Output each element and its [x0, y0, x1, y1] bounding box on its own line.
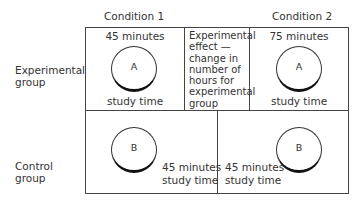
grid-line [85, 27, 86, 194]
row-label-line: Experimental [15, 64, 85, 76]
study-duration: 45 minutes [225, 161, 284, 173]
note-line: experimental [189, 86, 256, 97]
note-line: effect — [189, 41, 256, 52]
column-header-condition-1: Condition 1 [104, 10, 164, 22]
note-line: hours for [189, 75, 256, 86]
row-label-control: Control group [15, 160, 53, 184]
circle-label: B [112, 142, 156, 153]
study-caption: study time [250, 95, 348, 107]
study-caption: study time [162, 174, 218, 186]
grid-line [85, 193, 349, 194]
study-duration: 45 minutes [162, 161, 221, 173]
grid-line [184, 27, 185, 110]
row-label-line: Control [15, 160, 53, 172]
study-duration: 45 minutes [86, 30, 184, 42]
row-label-line: group [15, 172, 53, 184]
participant-circle-b: B [111, 127, 157, 173]
column-header-condition-2: Condition 2 [272, 10, 332, 22]
circle-label: A [112, 61, 156, 72]
grid-line [85, 27, 349, 28]
circle-label: B [277, 142, 321, 153]
study-duration: 75 minutes [250, 30, 348, 42]
row-label-line: group [15, 76, 85, 88]
participant-circle-a: A [111, 46, 157, 92]
study-caption: study time [86, 95, 184, 107]
row-label-experimental: Experimental group [15, 64, 85, 88]
note-line: group [189, 98, 256, 109]
study-caption: study time [225, 174, 281, 186]
experimental-effect-note: Experimental effect — change in number o… [189, 30, 256, 109]
circle-label: A [277, 61, 321, 72]
note-line: Experimental [189, 30, 256, 41]
note-line: number of [189, 64, 256, 75]
note-line: change in [189, 53, 256, 64]
grid-line [348, 27, 349, 194]
participant-circle-a: A [276, 46, 322, 92]
